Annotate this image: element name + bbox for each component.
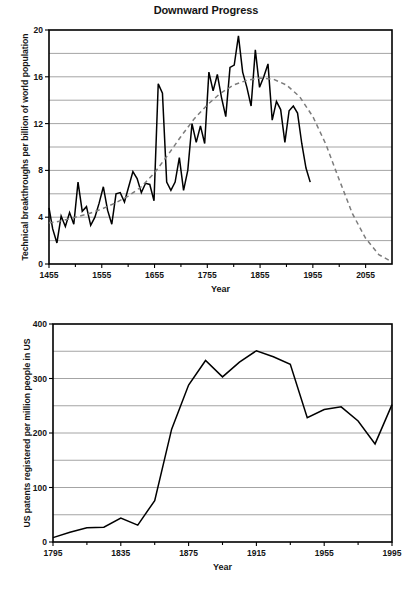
y-tick-label: 100 (33, 483, 47, 493)
x-tick-label: 1835 (111, 548, 130, 558)
x-tick-label: 1795 (44, 548, 63, 558)
y-tick-label: 400 (33, 319, 47, 329)
y-tick-label: 0 (42, 537, 47, 547)
x-tick-label: 1915 (247, 548, 266, 558)
x-tick-label: 1875 (179, 548, 198, 558)
y-tick-label: 4 (38, 212, 43, 222)
y-tick-label: 8 (38, 165, 43, 175)
x-tick-label: 1755 (198, 270, 217, 280)
y-tick-label: 12 (34, 119, 44, 129)
x-tick-label: 1995 (383, 548, 402, 558)
x-tick-label: 1955 (315, 548, 334, 558)
x-tick-label: 2055 (356, 270, 375, 280)
x-axis-title: Year (213, 562, 233, 572)
chart-downward-progress: Downward Progress 0481216201455155516551… (0, 0, 412, 300)
x-tick-label: 1555 (92, 270, 111, 280)
x-tick-label: 1455 (40, 270, 59, 280)
chart-svg-top: 0481216201455155516551755185519552055Yea… (0, 0, 412, 300)
figure-page: Downward Progress 0481216201455155516551… (0, 0, 412, 590)
x-tick-label: 1655 (145, 270, 164, 280)
y-tick-label: 16 (34, 72, 44, 82)
chart-title: Downward Progress (0, 4, 412, 16)
x-tick-label: 1955 (303, 270, 322, 280)
y-tick-label: 0 (38, 259, 43, 269)
x-tick-label: 1855 (251, 270, 270, 280)
trend-line-path (49, 78, 389, 261)
x-axis-title: Year (211, 284, 231, 294)
y-tick-label: 20 (34, 25, 44, 35)
y-axis-title: US patents registered per million people… (22, 338, 32, 527)
chart-svg-bot: 0100200300400179518351875191519551995Yea… (0, 300, 412, 590)
y-tick-label: 200 (33, 428, 47, 438)
y-tick-label: 300 (33, 374, 47, 384)
chart-us-patents: 0100200300400179518351875191519551995Yea… (0, 300, 412, 590)
y-axis-title: Technical breakthroughs per billion of w… (20, 33, 30, 260)
